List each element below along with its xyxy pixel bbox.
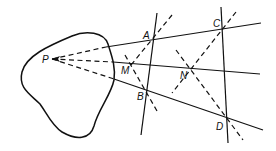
- line-PB-D: [114, 79, 263, 130]
- label-A: A: [142, 30, 150, 41]
- label-N: N: [180, 70, 188, 81]
- label-C: C: [213, 18, 221, 29]
- dashed-diagonal-MB: [125, 55, 157, 111]
- dashed-diagonal-ND: [176, 50, 243, 140]
- label-P: P: [42, 54, 49, 65]
- geometry-diagram: P A B C D M N: [0, 0, 276, 151]
- obstacle-region: [21, 33, 114, 138]
- label-M: M: [121, 65, 130, 76]
- label-D: D: [216, 121, 223, 132]
- label-B: B: [137, 91, 144, 102]
- dashed-P-A: [52, 47, 106, 59]
- arrowhead-icon: [52, 56, 60, 62]
- line-PA-C: [106, 23, 261, 47]
